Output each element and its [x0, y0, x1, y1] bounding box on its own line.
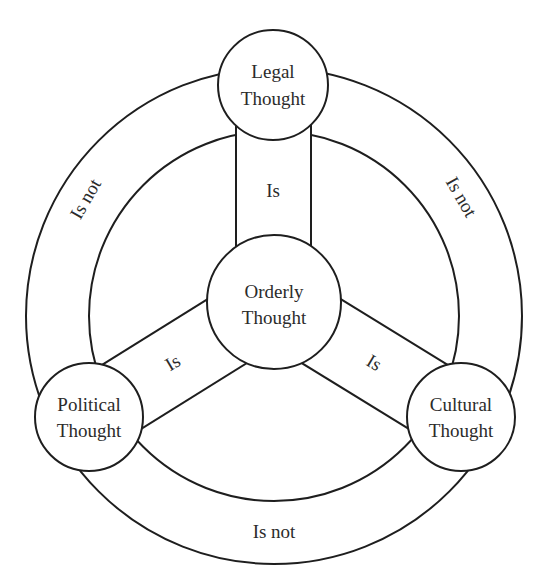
node-political-thought: Political Thought	[35, 363, 143, 471]
thought-relationship-diagram: Legal Thought Orderly Thought Political …	[0, 0, 545, 584]
node-legal-line1: Legal	[251, 61, 294, 82]
ring-label-legal-cultural: Is not	[442, 173, 482, 221]
node-political-line2: Thought	[57, 420, 122, 441]
ring-label-legal-political: Is not	[66, 174, 106, 222]
node-legal-line2: Thought	[241, 88, 306, 109]
node-orderly-line1: Orderly	[244, 281, 304, 302]
ring-label-political-cultural: Is not	[253, 521, 296, 542]
node-cultural-line2: Thought	[429, 420, 494, 441]
node-cultural-line1: Cultural	[430, 394, 492, 415]
spoke-label-legal-orderly: Is	[266, 180, 280, 201]
node-orderly-thought: Orderly Thought	[207, 235, 341, 369]
node-legal-thought: Legal Thought	[218, 30, 328, 140]
node-orderly-line2: Thought	[242, 307, 307, 328]
node-political-line1: Political	[57, 394, 120, 415]
node-cultural-thought: Cultural Thought	[407, 363, 515, 471]
